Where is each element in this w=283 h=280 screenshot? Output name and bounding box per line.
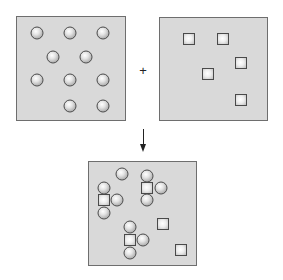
cube-particle-icon: [235, 94, 247, 106]
cube-particle-icon: [141, 182, 153, 194]
sphere-particle-icon: [31, 27, 44, 40]
cube-particle-icon: [175, 244, 187, 256]
sphere-particle-icon: [31, 74, 44, 87]
reaction-arrow-shaft: [143, 129, 144, 145]
sphere-particle-icon: [98, 182, 111, 195]
cube-particle-icon: [202, 68, 214, 80]
cube-particle-icon: [157, 218, 169, 230]
cube-particle-icon: [124, 234, 136, 246]
sphere-particle-icon: [80, 51, 93, 64]
sphere-particle-icon: [97, 74, 110, 87]
sphere-particle-icon: [97, 100, 110, 113]
sphere-particle-icon: [141, 170, 154, 183]
cube-particle-icon: [217, 33, 229, 45]
sphere-particle-icon: [97, 27, 110, 40]
sphere-particle-icon: [155, 182, 168, 195]
sphere-particle-icon: [141, 194, 154, 207]
plus-sign: +: [139, 64, 147, 77]
sphere-particle-icon: [47, 51, 60, 64]
down-arrow-icon: [140, 144, 146, 152]
sphere-particle-icon: [98, 207, 111, 220]
sphere-particle-icon: [64, 74, 77, 87]
sphere-particle-icon: [111, 194, 124, 207]
sphere-particle-icon: [116, 168, 129, 181]
cube-particle-icon: [98, 194, 110, 206]
sphere-particle-icon: [124, 247, 137, 260]
cube-particle-icon: [235, 57, 247, 69]
sphere-particle-icon: [124, 221, 137, 234]
sphere-particle-icon: [64, 100, 77, 113]
cube-particle-icon: [183, 33, 195, 45]
sphere-particle-icon: [64, 27, 77, 40]
sphere-particle-icon: [137, 234, 150, 247]
